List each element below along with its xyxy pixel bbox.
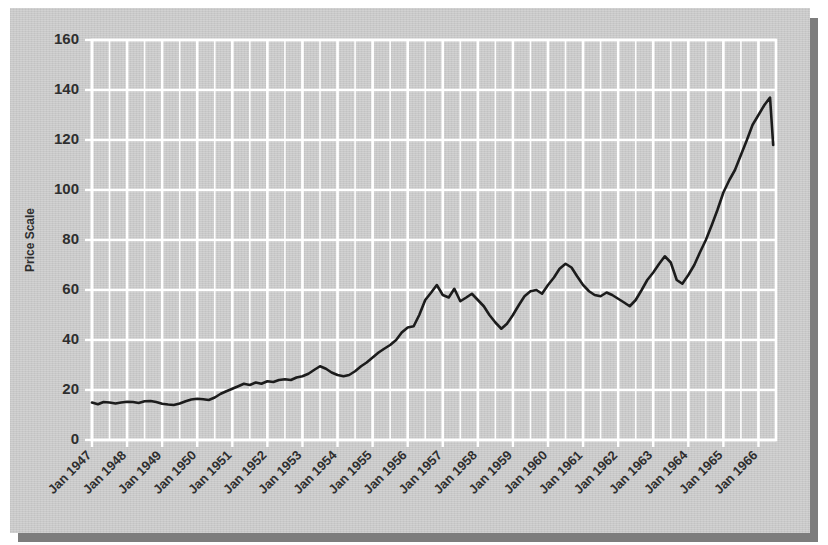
- y-axis-title: Price Scale: [23, 208, 37, 272]
- y-tick-label: 40: [62, 330, 79, 347]
- price-chart-svg: 020406080100120140160 Jan 1947Jan 1948Ja…: [10, 8, 810, 533]
- horizontal-gridlines: [92, 40, 776, 440]
- y-tick-label: 140: [54, 80, 79, 97]
- chart-card: 020406080100120140160 Jan 1947Jan 1948Ja…: [10, 8, 810, 533]
- y-tick-label: 80: [62, 230, 79, 247]
- y-tick-label: 120: [54, 130, 79, 147]
- y-tick-label: 160: [54, 30, 79, 47]
- y-tick-label: 0: [71, 430, 79, 447]
- figure-root: 020406080100120140160 Jan 1947Jan 1948Ja…: [0, 0, 828, 545]
- y-tick-label: 60: [62, 280, 79, 297]
- y-tick-label: 20: [62, 380, 79, 397]
- y-tick-label: 100: [54, 180, 79, 197]
- x-axis-ticks: Jan 1947Jan 1948Jan 1949Jan 1950Jan 1951…: [45, 440, 761, 497]
- y-axis-ticks: 020406080100120140160: [54, 30, 92, 447]
